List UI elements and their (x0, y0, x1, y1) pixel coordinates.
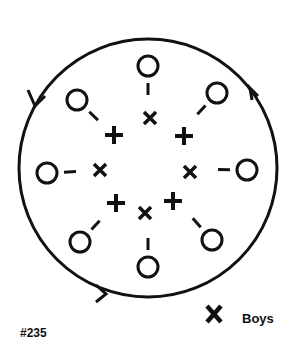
girl-circle-icon (70, 232, 90, 252)
plus-icon (164, 192, 182, 210)
boy-x-icon (144, 112, 156, 124)
girl-circle-icon (67, 90, 87, 110)
boy-x-icon (139, 207, 151, 219)
girl-circle-icon (37, 163, 57, 183)
arrow-icon (96, 285, 106, 302)
girl-circle-icon (138, 56, 158, 76)
formation-diagram (0, 0, 294, 349)
connector-line (64, 172, 76, 173)
figure-number: #235 (20, 326, 47, 340)
connector-line (197, 106, 205, 115)
girl-circle-icon (237, 160, 257, 180)
boy-x-icon (184, 166, 196, 178)
connector-line (193, 218, 201, 227)
plus-icon (107, 194, 125, 212)
boy-x-icon (94, 164, 106, 176)
connector-line (89, 112, 98, 120)
girl-circle-icon (138, 257, 158, 277)
plus-icon (105, 126, 123, 144)
plus-icon (175, 127, 193, 145)
girl-circle-icon (207, 83, 227, 103)
legend-boys-label: Boys (242, 311, 274, 326)
connector-line (92, 221, 100, 230)
girl-circle-icon (202, 230, 222, 250)
legend-x-icon (207, 306, 221, 322)
